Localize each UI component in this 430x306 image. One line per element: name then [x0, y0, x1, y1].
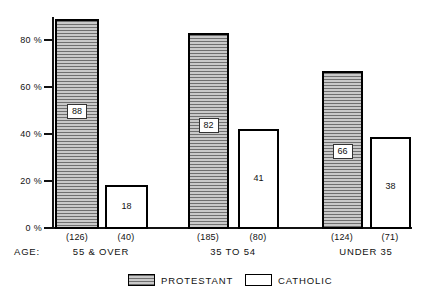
y-tick-label-60: 60 %: [20, 82, 42, 92]
bar-value-label: 66: [332, 144, 352, 159]
y-tick-80: [44, 39, 54, 41]
y-tick-label-0: 0 %: [26, 223, 42, 233]
bar-catholic-35-54: 41: [238, 129, 279, 229]
bar-protestant-55-over: 88: [55, 19, 99, 229]
legend-label-protestant: PROTESTANT: [161, 275, 233, 286]
bar-count-catholic-55-over: (40): [118, 232, 135, 242]
bar-value-label: 82: [198, 118, 218, 133]
y-tick-label-40: 40 %: [20, 129, 42, 139]
bar-value-label: 38: [381, 180, 399, 193]
y-tick-0: [44, 227, 54, 229]
bar-value-label: 88: [67, 104, 87, 119]
plot-area: 0 % 20 % 40 % 60 % 80 % 88 (126) 18 (40)…: [0, 0, 430, 240]
bar-value-label: 18: [117, 200, 135, 213]
x-axis-caption: AGE:: [14, 246, 40, 257]
bar-chart: 0 % 20 % 40 % 60 % 80 % 88 (126) 18 (40)…: [0, 0, 430, 306]
legend-item-protestant: PROTESTANT: [128, 274, 233, 286]
y-tick-60: [44, 86, 54, 88]
y-tick-40: [44, 133, 54, 135]
legend-item-catholic: CATHOLIC: [245, 274, 333, 286]
legend-label-catholic: CATHOLIC: [278, 275, 333, 286]
y-tick-label-80: 80 %: [20, 35, 42, 45]
y-tick-label-20: 20 %: [20, 176, 42, 186]
group-label-55-over: 55 & OVER: [73, 246, 129, 257]
bar-count-protestant-under-35: (124): [331, 232, 353, 242]
bar-protestant-35-54: 82: [188, 33, 229, 229]
legend: PROTESTANT CATHOLIC: [0, 272, 430, 292]
bar-count-catholic-under-35: (71): [382, 232, 399, 242]
legend-swatch-catholic-icon: [245, 274, 272, 286]
bar-count-catholic-35-54: (80): [250, 232, 267, 242]
y-tick-20: [44, 180, 54, 182]
y-axis-line: [52, 17, 54, 229]
bar-catholic-under-35: 38: [370, 137, 411, 229]
group-label-35-54: 35 TO 54: [210, 246, 256, 257]
bar-catholic-55-over: 18: [105, 185, 148, 229]
bar-value-label: 41: [249, 172, 267, 185]
bar-count-protestant-55-over: (126): [66, 232, 88, 242]
group-label-under-35: UNDER 35: [339, 246, 392, 257]
bar-protestant-under-35: 66: [322, 71, 363, 229]
bar-count-protestant-35-54: (185): [197, 232, 219, 242]
legend-swatch-protestant-icon: [128, 274, 155, 286]
